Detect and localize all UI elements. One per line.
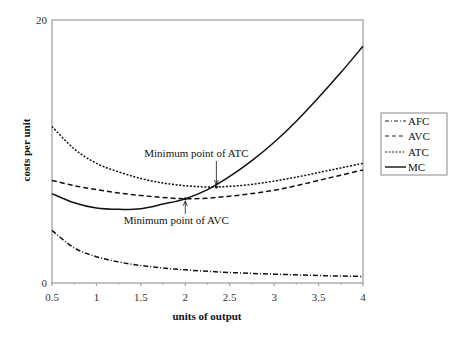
- legend-label-afc: AFC: [408, 115, 429, 127]
- legend-label-atc: ATC: [408, 146, 429, 158]
- legend-label-mc: MC: [408, 161, 425, 173]
- x-tick-label: 3: [271, 291, 277, 303]
- curves: [52, 46, 363, 276]
- x-tick-label: 2.5: [223, 291, 237, 303]
- y-tick-20: 20: [36, 14, 48, 26]
- curve-avc: [52, 170, 363, 199]
- legend-label-avc: AVC: [408, 130, 430, 142]
- annotation-atc-min: Minimum point of ATC: [144, 147, 248, 159]
- annotation-avc-min: Minimum point of AVC: [124, 214, 229, 226]
- x-tick-label: 1.5: [134, 291, 148, 303]
- y-axis-label: costs per unit: [20, 118, 32, 181]
- x-tick-label: 3.5: [312, 291, 326, 303]
- x-tick-label: 2: [183, 291, 189, 303]
- x-axis-label: units of output: [172, 310, 241, 322]
- x-tick-label: 4: [360, 291, 366, 303]
- x-tick-label: 0.5: [45, 291, 59, 303]
- legend: AFC AVC ATC MC: [381, 113, 447, 175]
- curve-mc: [52, 46, 363, 209]
- x-axis-ticks: 0.511.522.533.54: [45, 283, 366, 303]
- y-tick-0: 0: [42, 277, 48, 289]
- curve-afc: [52, 230, 363, 276]
- cost-curves-chart: 0.511.522.533.54 Minimum point of ATCMin…: [0, 0, 452, 338]
- x-tick-label: 1: [94, 291, 100, 303]
